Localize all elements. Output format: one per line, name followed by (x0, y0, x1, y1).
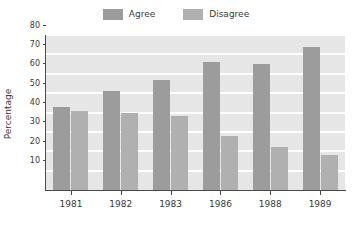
x-axis-tick-label: 1981 (59, 199, 82, 209)
legend-item-agree: Agree (103, 9, 155, 20)
x-axis-tick-mark (71, 190, 72, 195)
y-axis-tick-mark (43, 102, 46, 103)
gridline (46, 131, 345, 133)
x-axis-tick-label: 1982 (109, 199, 132, 209)
bar-disagree-1986 (221, 136, 238, 190)
x-axis-tick-label: 1989 (309, 199, 332, 209)
x-axis-tick-mark (270, 190, 271, 195)
bar-disagree-1982 (121, 113, 138, 191)
y-axis-tick-label: 40 (30, 98, 40, 107)
legend-item-disagree: Disagree (183, 9, 249, 20)
y-axis-tick: 10 (30, 156, 46, 166)
y-axis-tick: 40 (30, 98, 46, 108)
y-axis-tick: 20 (30, 136, 46, 146)
y-axis-tick-mark (43, 25, 46, 26)
bar-agree-1986 (203, 62, 220, 190)
bar-agree-1988 (253, 64, 270, 190)
y-axis-tick: 70 (30, 39, 46, 49)
gridline (46, 53, 345, 55)
bar-agree-1982 (103, 91, 120, 190)
y-axis-tick-mark (43, 141, 46, 142)
bar-disagree-1983 (171, 116, 188, 190)
y-axis-tick: 80 (30, 20, 46, 30)
legend-label-disagree: Disagree (209, 9, 249, 20)
x-axis-tick-label: 1983 (159, 199, 182, 209)
y-axis-tick-mark (43, 160, 46, 161)
gridline (46, 92, 345, 94)
bar-agree-1989 (303, 47, 320, 190)
y-axis-tick-mark (43, 83, 46, 84)
y-axis-tick-label: 30 (30, 117, 40, 126)
x-axis-tick-mark (121, 190, 122, 195)
y-axis-tick-label: 60 (30, 59, 40, 68)
y-axis-tick-mark (43, 121, 46, 122)
gridline (46, 73, 345, 75)
gridline (46, 170, 345, 172)
legend-swatch-disagree (183, 9, 203, 20)
bar-chart: Agree Disagree Percentage 10203040506070… (0, 0, 352, 228)
y-axis-tick-label: 10 (30, 156, 40, 165)
plot-area: 1020304050607080 19811982198319861988198… (46, 35, 345, 190)
chart-legend: Agree Disagree (0, 4, 352, 24)
x-axis-tick-label: 1986 (209, 199, 232, 209)
x-axis-tick-mark (320, 190, 321, 195)
y-axis-tick: 30 (30, 117, 46, 127)
y-axis-tick: 60 (30, 59, 46, 69)
y-axis-tick-label: 70 (30, 40, 40, 49)
y-axis-tick-label: 80 (30, 21, 40, 30)
y-axis-tick-label: 20 (30, 137, 40, 146)
y-axis-tick: 50 (30, 78, 46, 88)
y-axis-tick-mark (43, 63, 46, 64)
x-axis-tick-label: 1988 (259, 199, 282, 209)
legend-swatch-agree (103, 9, 123, 20)
bar-disagree-1981 (71, 111, 88, 190)
y-axis-title-text: Percentage (3, 89, 13, 140)
bar-disagree-1988 (271, 147, 288, 190)
gridline (46, 112, 345, 114)
y-axis-title: Percentage (0, 0, 16, 228)
bar-agree-1983 (153, 80, 170, 190)
gridline (46, 150, 345, 152)
bar-disagree-1989 (321, 155, 338, 190)
legend-label-agree: Agree (129, 9, 155, 20)
y-axis-tick-mark (43, 44, 46, 45)
gridline (46, 34, 345, 36)
bar-agree-1981 (53, 107, 70, 190)
y-axis-tick-label: 50 (30, 79, 40, 88)
x-axis-line (45, 190, 346, 191)
x-axis-tick-mark (220, 190, 221, 195)
x-axis-tick-mark (171, 190, 172, 195)
